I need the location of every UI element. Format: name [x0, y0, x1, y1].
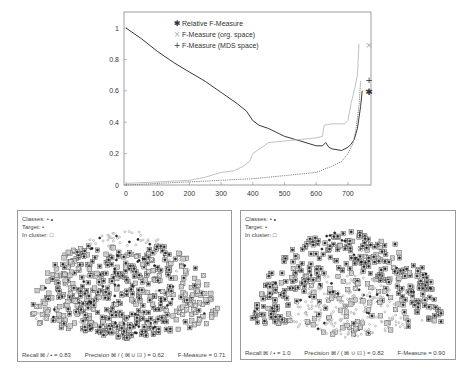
scatter-panel-left: Classes: • ∘ Target: • In cluster: □ Rec…	[17, 210, 232, 362]
recall-text: Recall ⊠ / • = 1.0	[245, 350, 291, 356]
end-marker-icon: +	[365, 75, 373, 85]
x-tick-label: 100	[152, 190, 164, 197]
recall-text: Recall ⊠ / • = 0.83	[22, 352, 71, 358]
x-tick-label: 0	[124, 190, 128, 197]
fmeasure-text: F-Measure = 0.90	[398, 350, 446, 356]
scatter-panel-right: Classes: • ∘ Target: • In cluster: □ Rec…	[240, 210, 456, 360]
legend-marker-icon: ✱	[174, 19, 181, 28]
end-markers: ✱×+	[365, 40, 373, 97]
legend-in-cluster: In cluster: □	[245, 231, 277, 239]
fmeasure-text: F-Measure = 0.71	[178, 352, 226, 358]
legend-in-cluster: In cluster: □	[22, 231, 54, 239]
series-line	[126, 44, 359, 184]
y-tick-label: 0.4	[109, 119, 119, 126]
f-measure-line-chart: 00.20.40.60.81 0100200300400500600700 ✱×…	[0, 0, 472, 205]
y-tick-label: 0.2	[109, 150, 119, 157]
legend-target: Target: •	[22, 223, 54, 231]
y-tick-label: 0.8	[109, 56, 119, 63]
series-lines	[126, 28, 362, 185]
series-line	[126, 81, 361, 185]
y-tick-label: 0.6	[109, 87, 119, 94]
legend-classes: Classes: • ∘	[245, 215, 277, 223]
chart-legend: ✱Relative F-Measure×F-Measure (org. spac…	[174, 19, 259, 50]
x-tick-label: 600	[310, 190, 322, 197]
precision-text: Precision ⊠ / ( ⊠ ∪ ⊡ ) = 0.62	[85, 352, 165, 358]
x-tick-label: 700	[342, 190, 354, 197]
precision-text: Precision ⊠ / ( ⊠ ∪ ⊡ ) = 0.82	[304, 350, 384, 356]
legend-marker-icon: ×	[174, 30, 181, 39]
y-tick-label: 1	[115, 25, 119, 32]
metrics-footer-left: Recall ⊠ / • = 0.83 Precision ⊠ / ( ⊠ ∪ …	[22, 351, 232, 358]
legend-label: F-Measure (MDS space)	[182, 42, 259, 50]
x-tick-label: 200	[184, 190, 196, 197]
end-marker-icon: ✱	[365, 87, 373, 97]
scatter-legend-left: Classes: • ∘ Target: • In cluster: □	[22, 215, 54, 239]
legend-marker-icon: +	[174, 41, 181, 50]
metrics-footer-right: Recall ⊠ / • = 1.0 Precision ⊠ / ( ⊠ ∪ ⊡…	[245, 349, 456, 356]
y-tick-label: 0	[115, 182, 119, 189]
x-tick-label: 300	[215, 190, 227, 197]
x-tick-label: 500	[279, 190, 291, 197]
legend-label: F-Measure (org. space)	[182, 31, 255, 39]
legend-classes: Classes: • ∘	[22, 215, 54, 223]
end-marker-icon: ×	[365, 40, 373, 50]
x-tick-label: 400	[247, 190, 259, 197]
scatter-legend-right: Classes: • ∘ Target: • In cluster: □	[245, 215, 277, 239]
legend-label: Relative F-Measure	[182, 20, 243, 27]
legend-target: Target: •	[245, 223, 277, 231]
x-axis: 0100200300400500600700	[124, 182, 354, 197]
